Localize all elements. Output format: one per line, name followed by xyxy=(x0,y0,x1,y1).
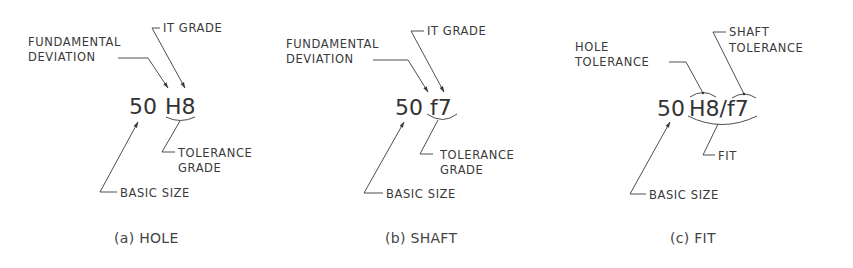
basic-size-value: 50 xyxy=(395,95,423,120)
caption-shaft: (b) SHAFT xyxy=(385,230,457,246)
it-grade-leader xyxy=(152,28,185,88)
tolerance-grade-label-line2: GRADE xyxy=(178,161,221,175)
basic-size-leader xyxy=(100,122,138,192)
it-grade-label: IT GRADE xyxy=(427,24,486,38)
panel-shaft: FUNDAMENTAL DEVIATION IT GRADE 50 f7 TOL… xyxy=(286,24,514,246)
fit-tolerance-value: H8/f7 xyxy=(689,96,749,121)
basic-size-leader xyxy=(364,122,404,193)
tolerance-grade-label-line2: GRADE xyxy=(440,163,483,177)
tolerance-designation-diagram: FUNDAMENTAL DEVIATION IT GRADE 50 H8 TOL… xyxy=(0,0,853,268)
caption-fit: (c) FIT xyxy=(670,230,716,246)
it-grade-label: IT GRADE xyxy=(163,21,222,35)
fundamental-deviation-label-line1: FUNDAMENTAL xyxy=(286,37,379,51)
tolerance-grade-leader xyxy=(420,120,438,154)
it-grade-leader xyxy=(411,31,444,92)
caption-hole: (a) HOLE xyxy=(114,230,179,246)
tolerance-grade-label-line1: TOLERANCE xyxy=(177,146,252,160)
tolerance-grade-label-line1: TOLERANCE xyxy=(439,148,514,162)
fit-label: FIT xyxy=(718,149,737,163)
panel-hole: FUNDAMENTAL DEVIATION IT GRADE 50 H8 TOL… xyxy=(28,21,252,246)
fit-leader xyxy=(703,124,718,155)
fundamental-deviation-label-line1: FUNDAMENTAL xyxy=(28,35,121,49)
basic-size-value: 50 xyxy=(129,94,157,119)
panel-fit: HOLE TOLERANCE SHAFT TOLERANCE 50 H8/f7 … xyxy=(574,25,803,246)
basic-size-leader xyxy=(630,122,670,194)
fundamental-deviation-label-line2: DEVIATION xyxy=(28,50,96,64)
shaft-tolerance-label-line2: TOLERANCE xyxy=(728,41,803,55)
shaft-tolerance-label-line1: SHAFT xyxy=(729,25,770,39)
hole-tolerance-leader xyxy=(669,62,703,93)
basic-size-label: BASIC SIZE xyxy=(120,186,190,200)
fundamental-deviation-leader xyxy=(118,58,168,88)
fundamental-deviation-leader xyxy=(373,60,428,92)
hole-tolerance-label-line1: HOLE xyxy=(575,40,609,54)
shaft-tolerance-value: f7 xyxy=(430,95,452,120)
fundamental-deviation-label-line2: DEVIATION xyxy=(286,52,354,66)
basic-size-label: BASIC SIZE xyxy=(649,188,719,202)
hole-tolerance-value: H8 xyxy=(165,94,196,119)
basic-size-value: 50 xyxy=(657,96,685,121)
basic-size-label: BASIC SIZE xyxy=(386,187,456,201)
hole-tolerance-label-line2: TOLERANCE xyxy=(574,55,649,69)
